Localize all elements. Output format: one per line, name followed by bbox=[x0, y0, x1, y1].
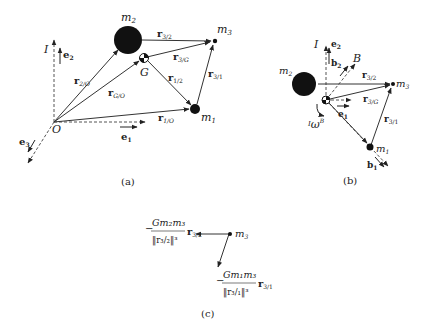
mass-m3 bbox=[228, 232, 232, 236]
panel-a: m2 m3 m1 G O I e2 e1 e3 r3/2 r3/G r1/2 r… bbox=[19, 11, 232, 187]
r3G-vector bbox=[147, 42, 210, 57]
label-m1: m1 bbox=[201, 111, 216, 125]
label-b2: b2 bbox=[331, 58, 341, 69]
label-r3G: r3/G bbox=[173, 51, 189, 63]
svg-text:‖r₃/₁‖³: ‖r₃/₁‖³ bbox=[223, 287, 249, 298]
panel-b: I e2 B b2 e1 b1 m2 m3 m1 r3/2 r3/G r3/1 … bbox=[279, 38, 409, 186]
r32-vector bbox=[142, 40, 211, 41]
label-r1O: r1/O bbox=[158, 112, 174, 124]
label-e1: e1 bbox=[338, 109, 348, 120]
force-3-2-expression: − Gm₂m₃ ‖r₃/₂‖³ r3/2 bbox=[145, 217, 202, 246]
label-m3: m3 bbox=[396, 78, 409, 90]
label-r3G: r3/G bbox=[363, 94, 379, 105]
mass-m3 bbox=[391, 82, 395, 86]
angular-velocity-arrow bbox=[317, 104, 324, 116]
caption-a: (a) bbox=[121, 176, 135, 187]
label-G: G bbox=[140, 66, 149, 79]
label-r31: r3/1 bbox=[208, 68, 223, 80]
label-e2: e2 bbox=[63, 49, 74, 61]
mass-m2 bbox=[292, 72, 316, 96]
label-O: O bbox=[52, 123, 61, 136]
label-e3: e3 bbox=[19, 136, 30, 148]
diagram-canvas: m2 m3 m1 G O I e2 e1 e3 r3/2 r3/G r1/2 r… bbox=[0, 0, 426, 330]
r12-vector bbox=[329, 103, 367, 143]
label-inertial-frame: I bbox=[43, 43, 49, 56]
label-r2O: r2/O bbox=[74, 75, 90, 87]
label-r32: r3/2 bbox=[157, 28, 172, 40]
label-omega: IωB bbox=[307, 117, 325, 131]
caption-b: (b) bbox=[343, 175, 357, 186]
label-m2: m2 bbox=[121, 11, 136, 25]
panel-c: m3 − Gm₂m₃ ‖r₃/₂‖³ r3/2 − Gm₁m₃ ‖r₃/₁‖³ … bbox=[145, 217, 273, 319]
rGO-vector bbox=[54, 61, 139, 122]
mass-m2 bbox=[114, 26, 142, 54]
label-b1: b1 bbox=[367, 160, 377, 171]
svg-text:r3/1: r3/1 bbox=[258, 278, 273, 290]
caption-c: (c) bbox=[201, 308, 215, 319]
mass-m1 bbox=[190, 104, 200, 114]
label-rGO: rG/O bbox=[108, 87, 125, 99]
center-of-mass-symbol bbox=[140, 54, 149, 63]
force-3-1-expression: − Gm₁m₃ ‖r₃/₁‖³ r3/1 bbox=[216, 269, 273, 298]
label-m3: m3 bbox=[235, 228, 248, 240]
label-e2: e2 bbox=[331, 39, 341, 50]
label-r12: r1/2 bbox=[168, 72, 183, 84]
svg-text:r3/2: r3/2 bbox=[187, 226, 202, 238]
center-of-mass-symbol bbox=[322, 96, 330, 104]
label-m3: m3 bbox=[217, 23, 232, 37]
label-r31: r3/1 bbox=[384, 114, 398, 125]
mass-m1 bbox=[367, 144, 374, 151]
inertial-axis-3 bbox=[28, 122, 54, 163]
r3G-vector bbox=[330, 85, 390, 99]
label-m2: m2 bbox=[279, 65, 292, 77]
force-m1-on-m3 bbox=[218, 234, 229, 267]
figure: m2 m3 m1 G O I e2 e1 e3 r3/2 r3/G r1/2 r… bbox=[0, 0, 426, 330]
label-body-frame: B bbox=[352, 52, 361, 65]
label-r32: r3/2 bbox=[362, 70, 377, 81]
label-m1: m1 bbox=[376, 143, 389, 155]
svg-text:Gm₂m₃: Gm₂m₃ bbox=[152, 217, 185, 228]
svg-text:Gm₁m₃: Gm₁m₃ bbox=[223, 269, 256, 280]
mass-m3 bbox=[213, 39, 217, 43]
label-e1: e1 bbox=[121, 131, 132, 143]
svg-text:‖r₃/₂‖³: ‖r₃/₂‖³ bbox=[152, 235, 178, 246]
label-inertial-frame: I bbox=[313, 38, 319, 51]
